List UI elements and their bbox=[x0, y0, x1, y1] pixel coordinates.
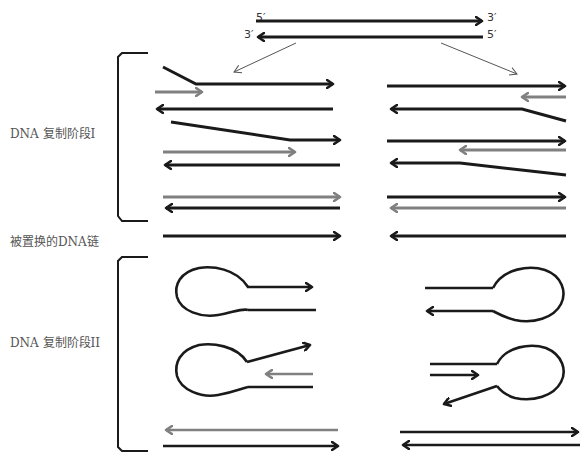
dna-replication-diagram: 5′ 3′ 3′ 5′ DNA 复制阶段I 被置换的DNA链 DNA 复制阶段I… bbox=[0, 0, 584, 464]
phase2-bracket bbox=[118, 257, 148, 451]
phase2-right bbox=[400, 268, 580, 445]
phase2-left bbox=[163, 267, 338, 446]
pointer-arrows bbox=[234, 43, 517, 74]
phase1-bracket bbox=[118, 53, 148, 221]
phase1-right bbox=[387, 86, 566, 236]
diagram-canvas bbox=[0, 0, 584, 464]
parent-duplex bbox=[256, 21, 483, 37]
phase1-left bbox=[155, 67, 340, 236]
